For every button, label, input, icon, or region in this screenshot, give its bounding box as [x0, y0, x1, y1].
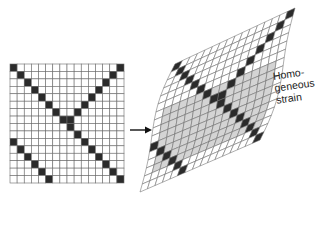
grid-cell: [117, 71, 124, 78]
grid-cell: [110, 176, 117, 183]
dark-cell: [74, 109, 81, 116]
dark-cell: [81, 138, 88, 145]
grid-cell: [117, 168, 124, 175]
dark-cell: [31, 86, 38, 93]
dark-cell: [103, 161, 110, 168]
dark-cell: [81, 101, 88, 108]
grid-cell: [53, 124, 60, 131]
grid-cell: [117, 109, 124, 116]
grid-cell: [10, 153, 17, 160]
grid-cell: [67, 138, 74, 145]
grid-cell: [96, 109, 103, 116]
grid-cell: [10, 131, 17, 138]
grid-cell: [88, 116, 95, 123]
grid-cell: [10, 109, 17, 116]
grid-cell: [117, 94, 124, 101]
grid-cell: [88, 64, 95, 71]
grid-cell: [53, 71, 60, 78]
dark-cell: [39, 168, 46, 175]
grid-cell: [46, 168, 53, 175]
grid-cell: [60, 153, 67, 160]
grid-cell: [24, 101, 31, 108]
dark-cell: [17, 146, 24, 153]
grid-cell: [67, 94, 74, 101]
grid-cell: [117, 146, 124, 153]
grid-cell: [24, 94, 31, 101]
grid-cell: [96, 71, 103, 78]
grid-cell: [17, 94, 24, 101]
grid-cell: [17, 101, 24, 108]
grid-cell: [74, 153, 81, 160]
grid-cell: [53, 176, 60, 183]
grid-cell: [53, 168, 60, 175]
grid-cell: [31, 64, 38, 71]
grid-cell: [81, 94, 88, 101]
grid-cell: [46, 71, 53, 78]
grid-cell: [39, 176, 46, 183]
grid-cell: [103, 86, 110, 93]
grid-cell: [67, 153, 74, 160]
grid-cell: [46, 116, 53, 123]
dark-cell: [96, 153, 103, 160]
grid-cell: [88, 138, 95, 145]
grid-cell: [103, 109, 110, 116]
grid-cell: [88, 168, 95, 175]
grid-cell: [53, 64, 60, 71]
grid-cell: [24, 138, 31, 145]
grid-cell: [88, 109, 95, 116]
grid-cell: [81, 64, 88, 71]
grid-cell: [31, 146, 38, 153]
grid-cell: [53, 86, 60, 93]
grid-cell: [67, 176, 74, 183]
grid-cell: [31, 116, 38, 123]
grid-cell: [81, 124, 88, 131]
grid-cell: [39, 86, 46, 93]
grid-cell: [10, 101, 17, 108]
grid-cell: [31, 94, 38, 101]
grid-cell: [10, 176, 17, 183]
dark-cell: [88, 146, 95, 153]
dark-cell: [117, 64, 124, 71]
grid-cell: [96, 94, 103, 101]
grid-cell: [31, 79, 38, 86]
grid-cell: [96, 79, 103, 86]
grid-cell: [96, 138, 103, 145]
grid-cell: [24, 109, 31, 116]
grid-cell: [110, 131, 117, 138]
grid-cell: [46, 109, 53, 116]
dark-cell: [74, 131, 81, 138]
grid-cell: [24, 176, 31, 183]
grid-cell: [39, 153, 46, 160]
grid-cell: [110, 138, 117, 145]
dark-cell: [53, 109, 60, 116]
grid-cell: [60, 71, 67, 78]
grid-cell: [17, 86, 24, 93]
grid-cell: [74, 146, 81, 153]
grid-cell: [88, 124, 95, 131]
grid-cell: [96, 146, 103, 153]
grid-cell: [74, 94, 81, 101]
grid-cell: [67, 161, 74, 168]
grid-cell: [103, 101, 110, 108]
dark-cell: [60, 116, 67, 123]
grid-cell: [103, 168, 110, 175]
grid-cell: [53, 79, 60, 86]
grid-cell: [60, 109, 67, 116]
grid-cell: [60, 124, 67, 131]
grid-cell: [96, 161, 103, 168]
dark-cell: [88, 94, 95, 101]
grid-cell: [24, 64, 31, 71]
grid-cell: [46, 131, 53, 138]
grid-cell: [96, 124, 103, 131]
grid-cell: [39, 138, 46, 145]
grid-cell: [53, 161, 60, 168]
grid-cell: [24, 71, 31, 78]
grid-cell: [31, 138, 38, 145]
grid-cell: [53, 146, 60, 153]
grid-cell: [10, 79, 17, 86]
grid-cell: [110, 86, 117, 93]
grid-cell: [46, 161, 53, 168]
grid-cell: [24, 146, 31, 153]
grid-cell: [81, 79, 88, 86]
grid-cell: [88, 79, 95, 86]
